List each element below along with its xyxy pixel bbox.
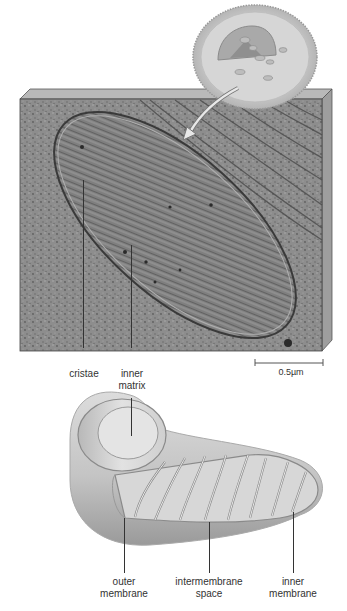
label-outer-membrane: outer membrane [94,576,154,600]
label-outer-membrane-line2: membrane [100,588,148,599]
micrograph-block [17,73,334,378]
cristae-leader-line [83,180,84,348]
inner-membrane-leader-line [293,512,294,573]
cutaway-mitochondrion [70,392,323,545]
scale-bar-label: 0.5µm [269,366,313,378]
outer-membrane-leader-line [124,518,125,573]
scale-bar-text: 0.5µm [278,367,303,377]
inner-matrix-leader-line [131,245,132,348]
inner-matrix-cutaway-leader-line [131,398,132,436]
intermembrane-space-leader-line [209,522,210,573]
label-inner-matrix: inner matrix [110,368,154,392]
scale-bar [255,359,323,366]
label-inner-matrix-line2: matrix [118,380,145,391]
mitochondrion-figure [0,0,347,611]
label-intermembrane-line1: intermembrane [175,576,242,587]
label-cristae-text: cristae [69,368,98,379]
label-inner-matrix-line1: inner [121,368,143,379]
cell-inset [193,5,317,109]
label-intermembrane-space: intermembrane space [169,576,249,600]
label-intermembrane-line2: space [196,588,223,599]
label-cristae: cristae [62,368,106,380]
label-inner-membrane-line1: inner [282,576,304,587]
label-inner-membrane-line2: membrane [269,588,317,599]
label-outer-membrane-line1: outer [113,576,136,587]
label-inner-membrane: inner membrane [263,576,323,600]
